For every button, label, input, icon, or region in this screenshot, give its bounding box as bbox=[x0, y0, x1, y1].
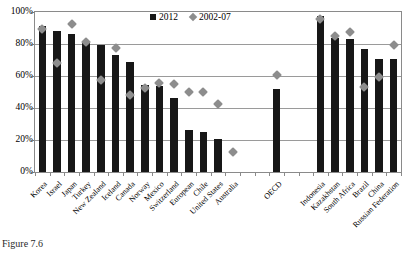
data-marker bbox=[213, 99, 223, 109]
marker-series-2002-07 bbox=[35, 12, 401, 172]
x-tick-mark bbox=[401, 173, 402, 176]
x-tick-mark bbox=[386, 173, 387, 176]
data-marker bbox=[228, 147, 238, 157]
data-marker bbox=[37, 24, 47, 34]
legend-label-2012: 2012 bbox=[159, 12, 178, 22]
data-marker bbox=[184, 87, 194, 97]
x-tick-mark bbox=[123, 173, 124, 176]
x-tick-mark bbox=[137, 173, 138, 176]
data-marker bbox=[111, 43, 121, 53]
y-tick-mark bbox=[31, 12, 34, 13]
y-tick-mark bbox=[31, 140, 34, 141]
legend-diamond-icon bbox=[189, 13, 197, 21]
x-tick-mark bbox=[342, 173, 343, 176]
x-tick-mark bbox=[372, 173, 373, 176]
x-tick-mark bbox=[211, 173, 212, 176]
data-marker bbox=[272, 70, 282, 80]
y-tick-mark bbox=[31, 172, 34, 173]
data-marker bbox=[125, 90, 135, 100]
x-tick-mark bbox=[35, 173, 36, 176]
legend-label-2002-07: 2002-07 bbox=[199, 12, 231, 22]
legend-item-2012: 2012 bbox=[150, 12, 178, 22]
y-tick-mark bbox=[31, 44, 34, 45]
x-tick-mark bbox=[50, 173, 51, 176]
x-tick-mark bbox=[181, 173, 182, 176]
chart-legend: 2012 2002-07 bbox=[150, 12, 231, 22]
x-tick-mark bbox=[94, 173, 95, 176]
y-tick-label: 80% bbox=[0, 39, 33, 49]
figure-caption: Figure 7.6 bbox=[2, 238, 43, 249]
data-marker bbox=[198, 87, 208, 97]
chart-figure: 0%20%40%60%80%100% KoreaIsraelJapanTurke… bbox=[0, 0, 405, 256]
data-marker bbox=[359, 82, 369, 92]
x-tick-mark bbox=[313, 173, 314, 176]
x-tick-mark bbox=[152, 173, 153, 176]
data-marker bbox=[330, 31, 340, 41]
y-tick-label: 100% bbox=[0, 7, 33, 17]
data-marker bbox=[96, 75, 106, 85]
data-marker bbox=[374, 72, 384, 82]
legend-item-2002-07: 2002-07 bbox=[190, 12, 231, 22]
x-tick-mark bbox=[357, 173, 358, 176]
data-marker bbox=[154, 78, 164, 88]
data-marker bbox=[67, 19, 77, 29]
x-tick-mark bbox=[240, 173, 241, 176]
x-tick-mark bbox=[299, 173, 300, 176]
x-tick-mark bbox=[79, 173, 80, 176]
data-marker bbox=[52, 58, 62, 68]
data-marker bbox=[81, 37, 91, 47]
x-tick-mark bbox=[225, 173, 226, 176]
x-tick-mark bbox=[328, 173, 329, 176]
data-marker bbox=[140, 83, 150, 93]
x-tick-mark bbox=[255, 173, 256, 176]
data-marker bbox=[169, 79, 179, 89]
data-marker bbox=[316, 14, 326, 24]
x-tick-mark bbox=[167, 173, 168, 176]
y-tick-label: 60% bbox=[0, 71, 33, 81]
y-tick-mark bbox=[31, 108, 34, 109]
x-tick-mark bbox=[108, 173, 109, 176]
data-marker bbox=[389, 40, 399, 50]
x-tick-mark bbox=[269, 173, 270, 176]
y-tick-mark bbox=[31, 76, 34, 77]
y-tick-label: 0% bbox=[0, 167, 33, 177]
x-tick-mark bbox=[64, 173, 65, 176]
data-marker bbox=[345, 27, 355, 37]
x-tick-mark bbox=[284, 173, 285, 176]
x-tick-mark bbox=[196, 173, 197, 176]
y-tick-label: 20% bbox=[0, 135, 33, 145]
legend-square-icon bbox=[150, 14, 156, 20]
y-tick-label: 40% bbox=[0, 103, 33, 113]
